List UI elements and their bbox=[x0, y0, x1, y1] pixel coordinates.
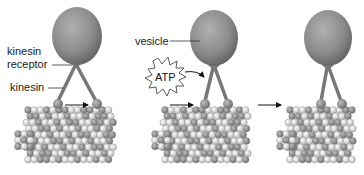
vesicle bbox=[190, 10, 238, 66]
kinesin-head-rear bbox=[316, 99, 326, 109]
label-kinesin-receptor-line1: kinesin bbox=[7, 45, 41, 57]
panel-step-2: vesicle ATP bbox=[135, 10, 251, 163]
kinesin-head-rear bbox=[200, 99, 210, 109]
microtubule bbox=[277, 107, 357, 163]
microtubule bbox=[152, 107, 252, 163]
kinesin-head-rear bbox=[53, 99, 63, 109]
label-kinesin-receptor-line2: receptor bbox=[7, 58, 48, 70]
kinesin-head-front bbox=[92, 99, 102, 109]
kinesin-diagram: kinesin receptor kinesin vesicle ATP bbox=[0, 0, 364, 175]
label-kinesin: kinesin bbox=[10, 81, 44, 93]
kinesin-leg-rear bbox=[58, 66, 75, 101]
kinesin-leg-front bbox=[329, 68, 341, 101]
kinesin-head-front bbox=[223, 99, 233, 109]
atp-binding-arrow bbox=[185, 72, 204, 77]
kinesin-leg-rear bbox=[321, 68, 327, 101]
kinesin-head-front bbox=[337, 99, 347, 109]
kinesin-leg-front bbox=[215, 68, 227, 101]
panel-step-3 bbox=[277, 10, 357, 163]
microtubule bbox=[15, 107, 117, 163]
kinesin-leg-front bbox=[77, 66, 96, 101]
vesicle bbox=[304, 10, 352, 66]
label-vesicle: vesicle bbox=[135, 35, 169, 47]
kinesin-leg-rear bbox=[205, 68, 213, 101]
vesicle bbox=[52, 7, 102, 65]
label-atp: ATP bbox=[155, 71, 176, 83]
panel-step-1: kinesin receptor kinesin bbox=[7, 7, 117, 163]
